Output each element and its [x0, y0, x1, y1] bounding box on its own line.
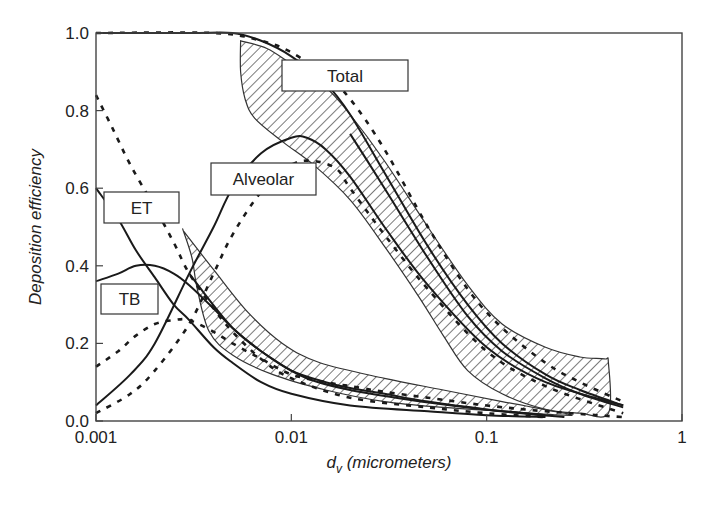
- svg-text:Total: Total: [327, 67, 363, 86]
- svg-text:ET: ET: [131, 199, 153, 218]
- y-tick-label: 0.0: [65, 412, 89, 431]
- label-alveolar: Alveolar: [211, 163, 316, 195]
- svg-text:Alveolar: Alveolar: [233, 170, 295, 189]
- y-tick-label: 0.4: [65, 257, 89, 276]
- uncertainty-bands: [183, 41, 611, 417]
- svg-text:TB: TB: [119, 290, 141, 309]
- y-axis-title: Deposition efficiency: [26, 148, 45, 305]
- deposition-efficiency-chart: 0.0010.010.110.00.20.40.60.81.0 TotalAlv…: [0, 0, 710, 508]
- x-tick-label: 1: [677, 428, 686, 447]
- label-tb: TB: [101, 284, 158, 314]
- y-tick-label: 0.2: [65, 334, 89, 353]
- y-tick-label: 1.0: [65, 24, 89, 43]
- x-tick-label: 0.1: [475, 428, 499, 447]
- x-tick-label: 0.01: [275, 428, 308, 447]
- label-total: Total: [282, 60, 408, 91]
- y-tick-label: 0.8: [65, 102, 89, 121]
- x-axis-title: dv (micrometers): [326, 453, 451, 476]
- y-tick-label: 0.6: [65, 179, 89, 198]
- label-et: ET: [104, 192, 179, 223]
